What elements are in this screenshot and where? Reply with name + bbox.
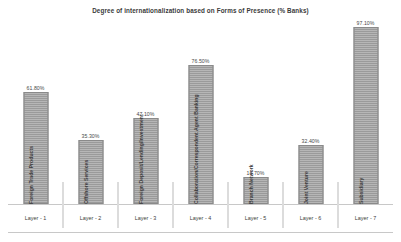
layer-label-6: Layer - 6 (283, 204, 338, 232)
bar-slot-1: 61.80% Foreign Trade Products (8, 22, 63, 204)
bar-chart: Degree of internationalization based on … (0, 0, 401, 242)
bar-slot-6: 32.40% Joint Venture (283, 22, 338, 204)
bar-slot-4: 76.50% Collaboration/Correspondent Agent… (173, 22, 228, 204)
layer-label-4: Layer - 4 (173, 204, 228, 232)
plot-area: 61.80% Foreign Trade Products 35.30% Off… (8, 22, 393, 204)
category-label-3: Foreign Deposit/Lending/Investment (137, 114, 143, 204)
layer-group-axis: Layer - 1 Layer - 2 Layer - 3 Layer - 4 … (8, 204, 393, 232)
category-label-wrap-6: Joint Venture (306, 112, 316, 204)
bar-rect-4[interactable]: Collaboration/Correspondent Agent Bankin… (188, 65, 213, 204)
bar-column-2[interactable]: 35.30% Offshore Services (63, 22, 118, 204)
bar-slot-7: 97.10% Subsidiary (338, 22, 393, 204)
category-label-wrap-3: Foreign Deposit/Lending/Investment (141, 112, 151, 204)
category-label-1: Foreign Trade Products (27, 146, 33, 204)
layer-label-2: Layer - 2 (63, 204, 118, 232)
chart-title: Degree of internationalization based on … (0, 7, 401, 15)
category-label-5: Branch Network (247, 164, 253, 204)
layer-label-7: Layer - 7 (338, 204, 393, 232)
bar-rect-5[interactable]: Branch Network (243, 177, 268, 204)
category-label-6: Joint Venture (302, 171, 308, 204)
category-label-wrap-4: Collaboration/Correspondent Agent Bankin… (196, 112, 206, 204)
bar-column-5[interactable]: 14.70% Branch Network (228, 22, 283, 204)
category-label-7: Subsidiary (357, 178, 363, 204)
bar-rect-1[interactable]: Foreign Trade Products (23, 92, 48, 204)
bar-column-1[interactable]: 61.80% Foreign Trade Products (8, 22, 63, 204)
bar-slot-3: 47.10% Foreign Deposit/Lending/Investmen… (118, 22, 173, 204)
bar-value-label-1: 61.80% (27, 85, 45, 91)
bar-rect-2[interactable]: Offshore Services (78, 140, 103, 204)
layer-label-3: Layer - 3 (118, 204, 173, 232)
bar-value-label-4: 76.50% (192, 58, 210, 64)
category-label-wrap-5: Branch Network (251, 112, 261, 204)
bar-rect-3[interactable]: Foreign Deposit/Lending/Investment (133, 118, 158, 204)
category-label-4: Collaboration/Correspondent Agent Bankin… (192, 94, 198, 204)
bar-column-3[interactable]: 47.10% Foreign Deposit/Lending/Investmen… (118, 22, 173, 204)
layer-label-1: Layer - 1 (8, 204, 63, 232)
bar-slot-2: 35.30% Offshore Services (63, 22, 118, 204)
category-label-wrap-1: Foreign Trade Products (31, 112, 41, 204)
layer-label-5: Layer - 5 (228, 204, 283, 232)
bar-column-6[interactable]: 32.40% Joint Venture (283, 22, 338, 204)
bar-column-4[interactable]: 76.50% Collaboration/Correspondent Agent… (173, 22, 228, 204)
bar-rect-6[interactable]: Joint Venture (298, 145, 323, 204)
chart-bottom-rule (8, 232, 393, 233)
bar-rect-7[interactable]: Subsidiary (353, 27, 378, 204)
bar-column-7[interactable]: 97.10% Subsidiary (338, 22, 393, 204)
bar-slot-5: 14.70% Branch Network (228, 22, 283, 204)
category-label-wrap-7: Subsidiary (361, 112, 371, 204)
bar-value-label-7: 97.10% (357, 20, 375, 26)
category-label-2: Offshore Services (82, 160, 88, 204)
category-label-wrap-2: Offshore Services (86, 112, 96, 204)
